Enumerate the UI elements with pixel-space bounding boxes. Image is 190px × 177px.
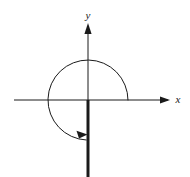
x-axis-label: x (175, 93, 181, 105)
y-axis-label: y (85, 9, 91, 21)
coordinate-diagram: x y (0, 0, 190, 177)
figure-background (0, 0, 190, 177)
figure-root: x y (0, 0, 190, 177)
